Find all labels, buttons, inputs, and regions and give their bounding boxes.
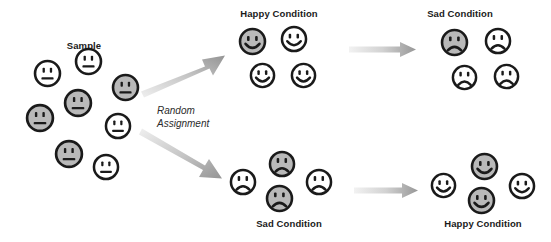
sample-face-3 <box>111 73 140 102</box>
happy-top-face-1 <box>238 27 267 56</box>
sample-face-5 <box>25 103 55 133</box>
random-assignment-line-2: Assignment <box>157 117 209 130</box>
happy-bottom-face-3 <box>467 186 496 215</box>
sample-face-7 <box>54 139 84 169</box>
random-assignment-diagram: Sample <box>0 0 551 242</box>
sad-bottom-face-2 <box>229 168 257 196</box>
arrow-random-assignment-down <box>139 129 222 179</box>
happy-bottom-face-1 <box>470 152 499 181</box>
sad-top-face-1 <box>440 28 469 57</box>
sample-face-4 <box>63 88 93 118</box>
happy-condition-bottom-label: Happy Condition <box>444 218 522 230</box>
happy-top-face-4 <box>290 62 317 89</box>
sample-face-1 <box>33 59 62 88</box>
random-assignment-label: Random Assignment <box>157 104 209 130</box>
sad-bottom-face-3 <box>265 184 294 213</box>
sample-face-6 <box>104 112 132 140</box>
arrow-sad-to-happy <box>354 183 418 198</box>
happy-bottom-face-4 <box>508 172 536 200</box>
happy-condition-top-label: Happy Condition <box>240 8 318 20</box>
sad-top-face-3 <box>451 64 478 91</box>
sad-top-face-4 <box>493 63 520 90</box>
happy-top-face-3 <box>249 62 276 89</box>
happy-bottom-face-2 <box>430 172 457 199</box>
sad-condition-bottom-label: Sad Condition <box>256 218 322 230</box>
sad-condition-top-label: Sad Condition <box>427 8 493 20</box>
arrow-random-assignment-up <box>141 56 225 98</box>
happy-top-face-2 <box>280 25 308 53</box>
arrow-happy-to-sad <box>349 42 416 57</box>
sad-top-face-2 <box>484 27 512 55</box>
sad-bottom-face-1 <box>268 150 296 178</box>
sad-bottom-face-4 <box>305 168 333 196</box>
random-assignment-line-1: Random <box>157 104 209 117</box>
sample-face-8 <box>92 153 120 181</box>
sample-face-2 <box>74 47 103 76</box>
